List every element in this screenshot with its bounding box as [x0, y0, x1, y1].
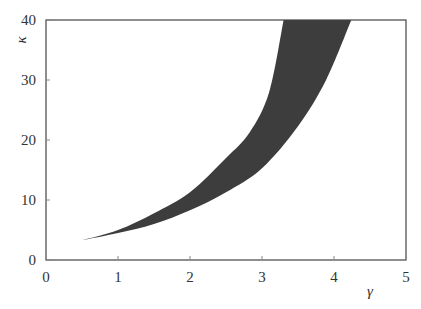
x-tick-label: 0 — [42, 269, 50, 285]
plot-frame — [46, 20, 406, 260]
y-axis-label: κ — [13, 36, 29, 44]
x-tick-label: 1 — [114, 269, 122, 285]
shaded-band — [82, 20, 351, 240]
x-tick-label: 4 — [330, 269, 338, 285]
x-tick-label: 5 — [402, 269, 410, 285]
y-tick-label: 20 — [21, 132, 36, 148]
x-tick-label: 3 — [258, 269, 266, 285]
y-tick-label: 40 — [21, 12, 36, 28]
y-tick-label: 0 — [29, 252, 37, 268]
shaded-region — [82, 20, 351, 240]
y-tick-label: 10 — [21, 192, 36, 208]
chart: 012345 010203040 γ κ — [0, 0, 421, 309]
y-tick-label: 30 — [21, 72, 36, 88]
x-axis-label: γ — [367, 283, 374, 299]
x-tick-label: 2 — [186, 269, 194, 285]
